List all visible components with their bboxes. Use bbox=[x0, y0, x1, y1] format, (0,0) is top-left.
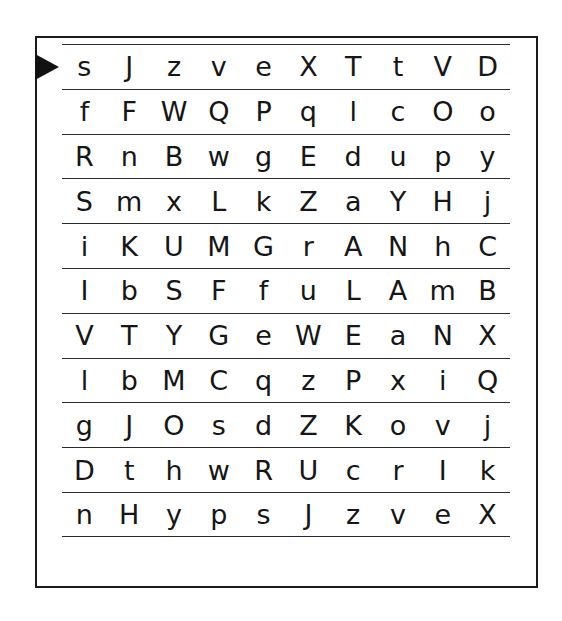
letter-cell[interactable]: i bbox=[420, 367, 465, 394]
letter-cell[interactable]: E bbox=[331, 322, 376, 349]
letter-cell[interactable]: E bbox=[286, 143, 331, 170]
letter-cell[interactable]: D bbox=[62, 457, 107, 484]
letter-cell[interactable]: T bbox=[331, 53, 376, 80]
letter-cell[interactable]: H bbox=[420, 188, 465, 215]
letter-cell[interactable]: N bbox=[376, 233, 421, 260]
letter-cell[interactable]: c bbox=[331, 457, 376, 484]
letter-cell[interactable]: B bbox=[465, 277, 510, 304]
letter-cell[interactable]: O bbox=[420, 98, 465, 125]
letter-cell[interactable]: W bbox=[286, 322, 331, 349]
letter-cell[interactable]: u bbox=[376, 143, 421, 170]
letter-cell[interactable]: M bbox=[196, 233, 241, 260]
letter-cell[interactable]: X bbox=[465, 322, 510, 349]
letter-cell[interactable]: p bbox=[196, 501, 241, 528]
letter-cell[interactable]: x bbox=[152, 188, 197, 215]
letter-cell[interactable]: Y bbox=[376, 188, 421, 215]
letter-cell[interactable]: e bbox=[241, 53, 286, 80]
letter-cell[interactable]: n bbox=[107, 143, 152, 170]
letter-cell[interactable]: A bbox=[376, 277, 421, 304]
letter-cell[interactable]: M bbox=[152, 367, 197, 394]
letter-cell[interactable]: N bbox=[420, 322, 465, 349]
letter-cell[interactable]: z bbox=[286, 367, 331, 394]
letter-cell[interactable]: q bbox=[241, 367, 286, 394]
letter-cell[interactable]: A bbox=[331, 233, 376, 260]
letter-cell[interactable]: Z bbox=[286, 188, 331, 215]
letter-cell[interactable]: S bbox=[152, 277, 197, 304]
letter-cell[interactable]: G bbox=[196, 322, 241, 349]
letter-cell[interactable]: t bbox=[107, 457, 152, 484]
letter-cell[interactable]: K bbox=[107, 233, 152, 260]
letter-cell[interactable]: i bbox=[62, 233, 107, 260]
letter-cell[interactable]: g bbox=[62, 412, 107, 439]
letter-cell[interactable]: h bbox=[420, 233, 465, 260]
letter-cell[interactable]: f bbox=[241, 277, 286, 304]
letter-cell[interactable]: D bbox=[465, 53, 510, 80]
letter-cell[interactable]: e bbox=[420, 501, 465, 528]
letter-cell[interactable]: a bbox=[331, 188, 376, 215]
letter-cell[interactable]: F bbox=[196, 277, 241, 304]
letter-cell[interactable]: m bbox=[420, 277, 465, 304]
letter-cell[interactable]: u bbox=[286, 277, 331, 304]
letter-cell[interactable]: F bbox=[107, 98, 152, 125]
letter-cell[interactable]: z bbox=[331, 501, 376, 528]
letter-cell[interactable]: C bbox=[465, 233, 510, 260]
letter-cell[interactable]: I bbox=[62, 277, 107, 304]
letter-cell[interactable]: s bbox=[62, 53, 107, 80]
letter-cell[interactable]: v bbox=[376, 501, 421, 528]
letter-cell[interactable]: j bbox=[465, 188, 510, 215]
letter-cell[interactable]: y bbox=[152, 501, 197, 528]
letter-cell[interactable]: x bbox=[376, 367, 421, 394]
letter-cell[interactable]: k bbox=[465, 457, 510, 484]
letter-cell[interactable]: w bbox=[196, 457, 241, 484]
letter-cell[interactable]: S bbox=[62, 188, 107, 215]
letter-cell[interactable]: j bbox=[465, 412, 510, 439]
letter-row[interactable]: fFWQPqlcOo bbox=[62, 89, 510, 134]
letter-cell[interactable]: w bbox=[196, 143, 241, 170]
letter-row[interactable]: RnBwgEdupy bbox=[62, 134, 510, 179]
letter-cell[interactable]: b bbox=[107, 367, 152, 394]
letter-cell[interactable]: L bbox=[331, 277, 376, 304]
letter-cell[interactable]: W bbox=[152, 98, 197, 125]
letter-row[interactable]: gJOsdZKovj bbox=[62, 402, 510, 447]
letter-cell[interactable]: R bbox=[241, 457, 286, 484]
letter-cell[interactable]: U bbox=[152, 233, 197, 260]
letter-cell[interactable]: Q bbox=[465, 367, 510, 394]
letter-cell[interactable]: r bbox=[376, 457, 421, 484]
letter-cell[interactable]: J bbox=[107, 412, 152, 439]
letter-cell[interactable]: H bbox=[107, 501, 152, 528]
letter-cell[interactable]: b bbox=[107, 277, 152, 304]
letter-cell[interactable]: J bbox=[107, 53, 152, 80]
letter-cell[interactable]: e bbox=[241, 322, 286, 349]
letter-cell[interactable]: p bbox=[420, 143, 465, 170]
letter-cell[interactable]: v bbox=[420, 412, 465, 439]
letter-cell[interactable]: d bbox=[241, 412, 286, 439]
letter-cell[interactable]: R bbox=[62, 143, 107, 170]
letter-cell[interactable]: q bbox=[286, 98, 331, 125]
letter-cell[interactable]: t bbox=[376, 53, 421, 80]
letter-cell[interactable]: O bbox=[152, 412, 197, 439]
letter-cell[interactable]: K bbox=[331, 412, 376, 439]
letter-row[interactable]: lbMCqzPxiQ bbox=[62, 358, 510, 403]
letter-cell[interactable]: P bbox=[331, 367, 376, 394]
letter-cell[interactable]: z bbox=[152, 53, 197, 80]
letter-cell[interactable]: C bbox=[196, 367, 241, 394]
letter-row[interactable]: nHypsJzveX bbox=[62, 492, 510, 537]
letter-cell[interactable]: Z bbox=[286, 412, 331, 439]
letter-row[interactable]: VTYGeWEaNX bbox=[62, 313, 510, 358]
letter-cell[interactable]: L bbox=[196, 188, 241, 215]
letter-row[interactable]: SmxLkZaYHj bbox=[62, 178, 510, 223]
letter-row[interactable]: DthwRUcrIk bbox=[62, 447, 510, 492]
letter-cell[interactable]: n bbox=[62, 501, 107, 528]
letter-cell[interactable]: P bbox=[241, 98, 286, 125]
letter-cell[interactable]: o bbox=[376, 412, 421, 439]
letter-cell[interactable]: X bbox=[465, 501, 510, 528]
letter-row[interactable]: sJzveXTtVD bbox=[62, 44, 510, 89]
letter-cell[interactable]: g bbox=[241, 143, 286, 170]
letter-cell[interactable]: m bbox=[107, 188, 152, 215]
letter-row[interactable]: iKUMGrANhC bbox=[62, 223, 510, 268]
letter-cell[interactable]: o bbox=[465, 98, 510, 125]
letter-cell[interactable]: a bbox=[376, 322, 421, 349]
letter-cell[interactable]: U bbox=[286, 457, 331, 484]
letter-cell[interactable]: s bbox=[241, 501, 286, 528]
letter-cell[interactable]: T bbox=[107, 322, 152, 349]
